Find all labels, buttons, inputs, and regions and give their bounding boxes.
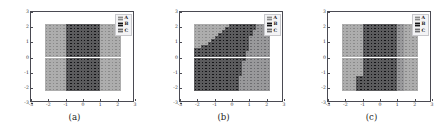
ytick-mark (328, 73, 330, 74)
data-cell (415, 45, 418, 48)
data-cell (415, 48, 418, 51)
ytick-mark (31, 73, 33, 74)
xtick-label: -2 (46, 103, 50, 108)
legend-row-c-0: A (415, 16, 426, 21)
data-cell (267, 36, 270, 39)
data-cell (267, 54, 270, 57)
caption-c: (c) (297, 112, 446, 122)
ytick-label: 1 (323, 40, 326, 45)
caption-a: (a) (0, 112, 149, 122)
ytick-label: 2 (26, 25, 29, 30)
data-cell (118, 36, 121, 39)
ytick-label: 0 (175, 55, 178, 60)
xtick-mark (415, 99, 416, 101)
data-cell (118, 85, 121, 88)
legend-label-class-c: C (125, 29, 129, 34)
legend-swatch-class-a (267, 16, 272, 21)
ytick-mark (31, 42, 33, 43)
xtick-label: -3 (326, 103, 330, 108)
ytick-mark (31, 88, 33, 89)
data-cell (415, 73, 418, 76)
ytick-label: -2 (24, 86, 28, 91)
xtick-mark (363, 99, 364, 101)
ytick-label: -1 (24, 70, 28, 75)
legend-row-b-2: C (267, 28, 278, 33)
data-cell (415, 82, 418, 85)
data-cell (415, 61, 418, 64)
data-cell (118, 58, 121, 61)
ytick-label: 2 (323, 25, 326, 30)
ytick-mark (328, 88, 330, 89)
legend-label-class-c: C (422, 29, 426, 34)
legend-swatch-class-c (415, 28, 420, 33)
legend-label-class-a: A (422, 16, 426, 21)
xtick-mark (48, 99, 49, 101)
ytick-mark (180, 12, 182, 13)
data-cell (415, 36, 418, 39)
ytick-mark (180, 88, 182, 89)
ytick-label: 3 (323, 10, 326, 15)
xtick-label: -3 (29, 103, 33, 108)
data-cell (267, 64, 270, 67)
ytick-mark (328, 12, 330, 13)
ytick-label: -1 (173, 70, 177, 75)
xtick-mark (432, 99, 433, 101)
data-cell (118, 64, 121, 67)
legend-row-c-1: B (415, 22, 426, 27)
legend-a[interactable]: A B C (115, 14, 132, 36)
ytick-mark (31, 27, 33, 28)
legend-label-class-b: B (422, 22, 426, 27)
xtick-mark (380, 99, 381, 101)
data-cell (118, 70, 121, 73)
xtick-mark (328, 99, 329, 101)
xtick-mark (135, 99, 136, 101)
ytick-mark (328, 42, 330, 43)
data-cell (267, 82, 270, 85)
xtick-mark (267, 99, 268, 101)
data-cell (118, 82, 121, 85)
ytick-mark (180, 58, 182, 59)
data-cell (118, 76, 121, 79)
xtick-mark (31, 99, 32, 101)
legend-swatch-class-a (415, 16, 420, 21)
legend-label-class-a: A (125, 16, 129, 21)
xtick-mark (180, 99, 181, 101)
data-cell (415, 88, 418, 91)
legend-row-c-2: C (415, 28, 426, 33)
xtick-label: 0 (379, 103, 382, 108)
panel-c: A B C -3-2-10123-3-2-10123 (c) (297, 0, 446, 137)
xtick-label: 2 (413, 103, 416, 108)
data-cell (415, 67, 418, 70)
data-cell (415, 42, 418, 45)
data-cell (118, 51, 121, 54)
data-cell (267, 88, 270, 91)
ytick-label: -2 (173, 86, 177, 91)
legend-row-b-1: B (267, 22, 278, 27)
legend-b[interactable]: A B C (264, 14, 281, 36)
data-cell (415, 70, 418, 73)
data-cell (267, 45, 270, 48)
xtick-label: 0 (231, 103, 234, 108)
xtick-label: -1 (212, 103, 216, 108)
xtick-mark (397, 99, 398, 101)
data-cell (415, 79, 418, 82)
data-cell (118, 67, 121, 70)
xtick-label: 3 (134, 103, 137, 108)
ytick-label: 1 (26, 40, 29, 45)
ytick-label: -1 (321, 70, 325, 75)
legend-swatch-class-c (118, 28, 123, 33)
data-cell (118, 48, 121, 51)
data-cell (267, 42, 270, 45)
ytick-mark (180, 73, 182, 74)
ytick-label: -2 (321, 86, 325, 91)
data-cell (267, 39, 270, 42)
legend-c[interactable]: A B C (412, 14, 429, 36)
legend-swatch-class-b (118, 22, 123, 27)
xtick-label: 3 (431, 103, 434, 108)
data-cell (267, 73, 270, 76)
data-cell (267, 76, 270, 79)
legend-row-a-1: B (118, 22, 129, 27)
xtick-mark (249, 99, 250, 101)
data-cell (267, 67, 270, 70)
data-cell (267, 79, 270, 82)
